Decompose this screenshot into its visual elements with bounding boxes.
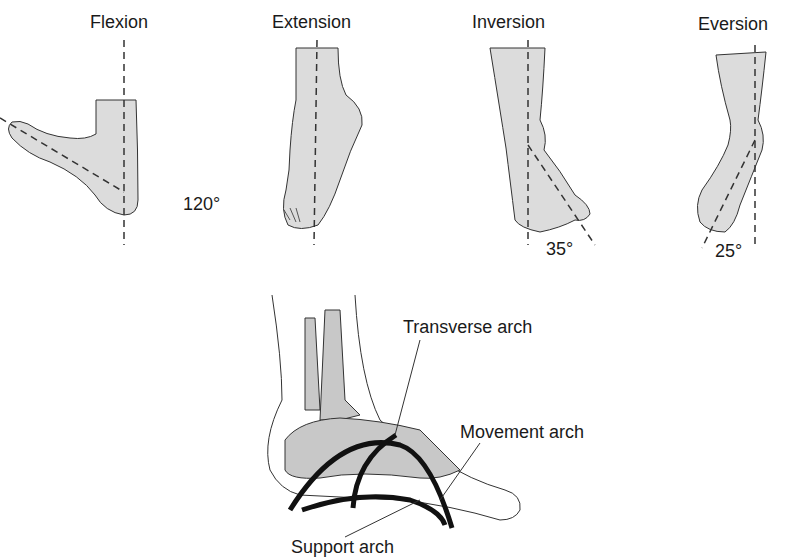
inversion-foot-illustration	[490, 40, 595, 245]
eversion-foot-illustration	[697, 45, 766, 248]
extension-title: Extension	[272, 13, 351, 31]
support-arch-label: Support arch	[291, 538, 394, 556]
extension-foot-illustration	[283, 40, 362, 245]
eversion-angle: 25°	[715, 242, 742, 260]
inversion-title: Inversion	[472, 13, 545, 31]
foot-motion-diagram	[0, 0, 786, 559]
flexion-title: Flexion	[90, 13, 148, 31]
movement-arch-label: Movement arch	[460, 423, 584, 441]
inversion-angle: 35°	[546, 240, 573, 258]
eversion-title: Eversion	[698, 15, 768, 33]
flexion-angle: 120°	[183, 195, 220, 213]
flexion-foot-illustration	[0, 40, 138, 245]
transverse-arch-label: Transverse arch	[403, 318, 532, 336]
